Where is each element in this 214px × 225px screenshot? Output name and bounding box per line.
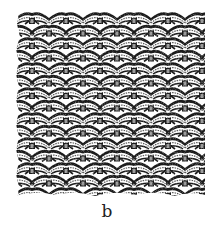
figure-panel: b bbox=[0, 0, 214, 225]
woven-mesh-illustration bbox=[15, 12, 205, 200]
panel-label: b bbox=[0, 201, 214, 221]
